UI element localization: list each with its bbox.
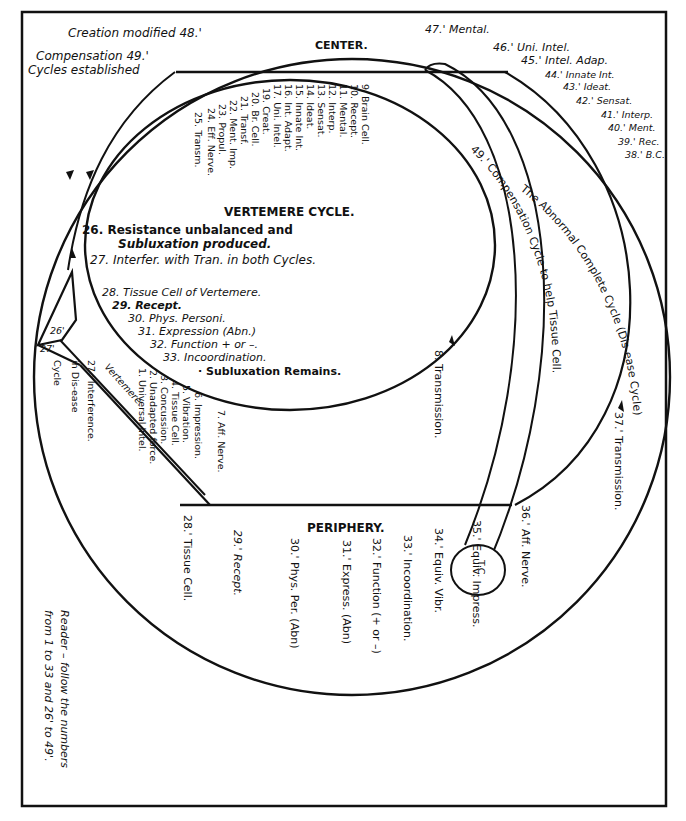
abnormal-item-38: 38.' B.C. bbox=[625, 150, 665, 160]
normal-item-20: 20. Br. Cell. bbox=[250, 92, 260, 147]
abnormal-item-28: 28.' Tissue Cell. bbox=[181, 515, 193, 601]
svg-text:49.' Compensation Cycle to hel: 49.' Compensation Cycle to help Tissue C… bbox=[468, 143, 563, 374]
reader-note-line1: Reader – follow the numbers bbox=[58, 610, 70, 768]
normal-item-9: 9. Brain Cell. bbox=[360, 84, 370, 145]
label-27-prime: 27' bbox=[40, 344, 55, 354]
vertemere-item-29: 29. Recept. bbox=[112, 300, 182, 312]
creation-label: Creation modified 48.' bbox=[68, 27, 202, 39]
normal-item-25: 25. Transm. bbox=[193, 112, 203, 168]
abnormal-item-45: 45.' Intel. Adap. bbox=[521, 55, 608, 67]
normal-item-17: 17. Uni. Intel. bbox=[272, 84, 282, 148]
abnormal-item-47: 47.' Mental. bbox=[425, 24, 490, 36]
periphery-heading: PERIPHERY. bbox=[307, 522, 385, 534]
abnormal-item-46: 46.' Uni. Intel. bbox=[493, 42, 570, 54]
compensation-label: Compensation 49.' bbox=[36, 50, 149, 62]
abnormal-item-34: 34.' Equiv. Vibr. bbox=[432, 528, 444, 613]
normal-item-19: 19. Creat. bbox=[261, 88, 271, 135]
abnormal-item-40: 40.' Ment. bbox=[608, 123, 656, 133]
abnormal-item-43: 43.' Ideat. bbox=[563, 82, 611, 92]
cycle-label: Cycle bbox=[52, 360, 62, 386]
normal-item-3: 3. Concussion. bbox=[159, 375, 169, 444]
compensation-cycle-label: 49.' Compensation Cycle to help Tissue C… bbox=[468, 143, 563, 374]
vertemere-item-28: 28. Tissue Cell of Vertemere. bbox=[102, 287, 261, 299]
vertemere-item-32: 32. Function + or –. bbox=[150, 339, 258, 351]
diagram-stage: The Abnormal Complete Cycle (Dis-ease Cy… bbox=[0, 0, 686, 821]
normal-item-21: 21. Transf. bbox=[239, 96, 249, 145]
abnormal-item-30: 30.' Phys. Per. (Abn) bbox=[288, 538, 300, 648]
abnormal-item-39: 39.' Rec. bbox=[618, 137, 659, 147]
reader-note-line2: from 1 to 33 and 26' to 49'. bbox=[42, 610, 54, 762]
normal-item-10: 10. Recept. bbox=[349, 84, 359, 138]
normal-item-7: 7. Aff. Nerve. bbox=[216, 410, 226, 473]
vertemere-item-31: 31. Expression (Abn.) bbox=[138, 326, 256, 338]
vertemere-item-27: 27. Interfer. with Tran. in both Cycles. bbox=[90, 254, 316, 266]
vertemere-item-26: 26. Resistance unbalanced and bbox=[82, 224, 293, 236]
label-26-prime: 26' bbox=[50, 326, 65, 336]
center-heading: CENTER. bbox=[315, 40, 368, 52]
abnormal-item-33: 33.' Incoordination. bbox=[401, 535, 413, 641]
abnormal-cycle-label: The Abnormal Complete Cycle (Dis-ease Cy… bbox=[517, 182, 644, 416]
subluxation-remains: · Subluxation Remains. bbox=[198, 366, 341, 378]
abnormal-item-37: 37.' Transmission. bbox=[612, 412, 624, 511]
normal-item-14: 14. Ideat. bbox=[305, 84, 315, 129]
normal-item-15: 15. Innate Int. bbox=[294, 84, 304, 151]
interference-label: 27.' Interference. bbox=[86, 360, 96, 442]
normal-item-6: 6. Impression. bbox=[193, 392, 203, 459]
svg-text:The Abnormal Complete Cycle (D: The Abnormal Complete Cycle (Dis-ease Cy… bbox=[517, 182, 644, 416]
abnormal-item-29: 29.' Recept. bbox=[231, 530, 243, 596]
normal-item-13: 13. Sensat. bbox=[316, 84, 326, 138]
normal-item-5: 5. Vibration. bbox=[181, 385, 191, 443]
abnormal-item-31: 31.' Express. (Abn) bbox=[340, 540, 352, 644]
normal-item-16: 16. Int. Adapt. bbox=[283, 84, 293, 152]
abnormal-item-42: 42.' Sensat. bbox=[576, 96, 632, 106]
in-disease-label: in Dis-ease bbox=[70, 360, 80, 412]
vertemere-item-33: 33. Incoordination. bbox=[163, 352, 267, 364]
normal-item-8: 8. Transmission. bbox=[432, 350, 444, 439]
abnormal-item-44: 44.' Innate Int. bbox=[545, 70, 615, 80]
normal-item-24: 24. Eff. Nerve. bbox=[206, 108, 216, 176]
abnormal-item-41: 41.' Interp. bbox=[601, 110, 653, 120]
normal-item-4: 4. Tissue Cell. bbox=[170, 380, 180, 446]
normal-item-23: 23. Propul. bbox=[217, 104, 227, 155]
tc-label: T.C. bbox=[476, 560, 486, 577]
vertemere-item-30: 30. Phys. Personi. bbox=[128, 313, 226, 325]
abnormal-item-32: 32.' Function (+ or –) bbox=[370, 538, 382, 654]
vertemere-item-26b: Subluxation produced. bbox=[118, 238, 271, 250]
vertemere-cycle-heading: VERTEMERE CYCLE. bbox=[224, 206, 355, 218]
abnormal-item-36: 36.' Aff. Nerve. bbox=[519, 505, 531, 587]
cycles-established-label: Cycles established bbox=[28, 64, 140, 76]
normal-item-22: 22. Ment. Imp. bbox=[228, 100, 238, 169]
normal-item-11: 11. Mental. bbox=[338, 84, 348, 137]
normal-item-1: 1. Universal Intel. bbox=[137, 368, 147, 452]
normal-item-2: 2. Unadapted force. bbox=[148, 370, 158, 464]
normal-item-12: 12. Interp. bbox=[327, 84, 337, 133]
